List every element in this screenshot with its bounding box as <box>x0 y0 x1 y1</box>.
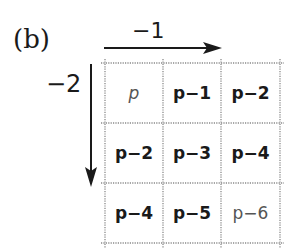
grid-cell-r0-c0: p <box>105 63 163 123</box>
grid-cell-r0-c1: p−1 <box>163 63 221 123</box>
grid-cell-r0-c2: p−2 <box>221 63 280 123</box>
grid-cell-r2-c1: p−5 <box>163 183 221 243</box>
grid-cell-r1-c1: p−3 <box>163 123 221 183</box>
grid-cell-r1-c2: p−4 <box>221 123 280 183</box>
sample-grid: p p−1 p−2 p−2 p−3 p−4 p−4 p−5 p−6 <box>105 63 281 243</box>
right-arrow-icon <box>104 42 222 54</box>
grid-cell-r1-c0: p−2 <box>105 123 163 183</box>
grid-cell-r2-c2: p−6 <box>221 183 280 243</box>
down-arrow-icon <box>85 64 97 187</box>
grid-cell-r2-c0: p−4 <box>105 183 163 243</box>
